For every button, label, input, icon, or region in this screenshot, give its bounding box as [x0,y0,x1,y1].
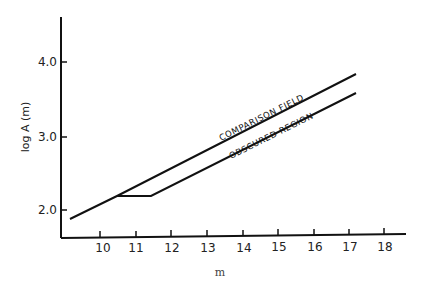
x-tick-label: 17 [342,240,357,254]
y-tick-label: 4.0 [38,55,57,69]
x-tick-label: 14 [236,241,251,255]
x-tick-label: 12 [164,241,179,255]
y-axis-label: log A (m) [19,102,32,153]
x-tick-label: 16 [307,240,322,254]
y-ticks: 4.0 3.0 2.0 [38,55,67,217]
x-tick-label: 10 [95,241,110,255]
comparison-field-line [70,74,356,219]
x-tick-label: 15 [271,240,286,254]
y-tick-label: 3.0 [38,130,57,144]
obscured-region-line [117,93,356,196]
y-tick-label: 2.0 [38,203,57,217]
x-ticks: 10 11 12 13 14 15 16 17 18 [95,228,392,255]
x-tick-label: 13 [200,241,215,255]
x-tick-label: 18 [377,240,392,254]
chart: 4.0 3.0 2.0 10 11 12 13 14 15 16 17 18 l… [0,0,425,290]
x-axis-label: m [215,266,226,279]
x-tick-label: 11 [128,241,143,255]
x-axis [61,234,406,238]
